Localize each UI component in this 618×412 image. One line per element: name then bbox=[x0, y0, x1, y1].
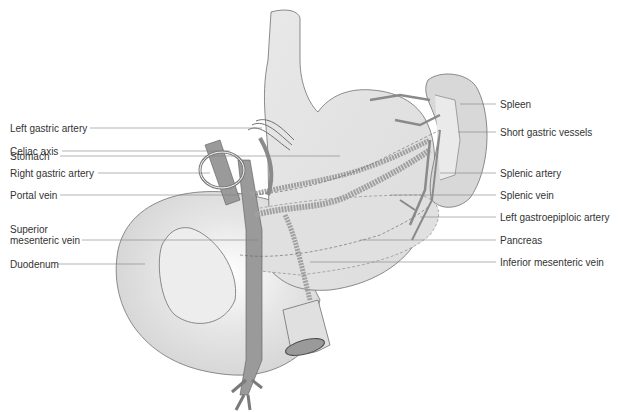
label-portal-vein: Portal vein bbox=[10, 190, 57, 201]
label-left-gastric-artery: Left gastric artery bbox=[10, 123, 87, 134]
label-superior-mesenteric-vein: Superior mesenteric vein bbox=[10, 224, 80, 246]
jejunum-tube bbox=[283, 300, 330, 359]
label-short-gastric-vessels: Short gastric vessels bbox=[500, 127, 592, 138]
label-duodenum: Duodenum bbox=[10, 259, 59, 270]
label-celiac-axis: Celiac axis bbox=[10, 146, 58, 157]
label-spleen: Spleen bbox=[500, 99, 531, 110]
label-splenic-artery: Splenic artery bbox=[500, 168, 561, 179]
diagram-illustration bbox=[0, 0, 618, 412]
label-splenic-vein: Splenic vein bbox=[500, 190, 554, 201]
spleen-shape bbox=[426, 74, 487, 207]
label-inferior-mesenteric-vein: Inferior mesenteric vein bbox=[500, 257, 604, 268]
label-left-gastroepiploic-artery: Left gastroepiploic artery bbox=[500, 212, 610, 223]
label-pancreas: Pancreas bbox=[500, 235, 542, 246]
label-right-gastric-artery: Right gastric artery bbox=[10, 168, 94, 179]
anatomy-diagram: Stomach Left gastric artery Celiac axis … bbox=[0, 0, 618, 412]
